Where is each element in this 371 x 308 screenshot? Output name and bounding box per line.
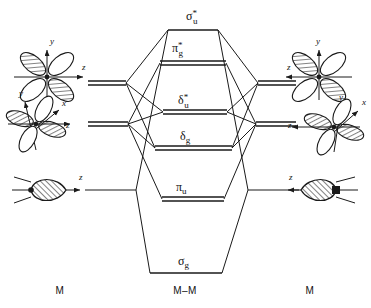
correlation-line <box>126 30 168 83</box>
axis-label-z: z <box>78 172 83 182</box>
correlation-line <box>224 124 256 199</box>
nucleus-dot <box>28 187 34 193</box>
column-label-left-fragment: M <box>56 285 65 296</box>
correlation-line <box>232 124 256 148</box>
correlation-line <box>128 124 155 148</box>
back-lobes <box>12 177 31 203</box>
axis-label-y: y <box>315 36 320 46</box>
column-label-right-fragment: M <box>306 285 315 296</box>
fragment-level-right-d-upper <box>258 81 296 85</box>
sigma-lobe <box>31 180 66 201</box>
correlation-line <box>222 190 248 273</box>
axis-label-z: z <box>286 62 291 72</box>
mo-level-pi-g-star <box>160 61 226 65</box>
mo-level-delta-u-star <box>163 110 227 114</box>
mo-labels: σ*u π*g δ*u δg πu σg <box>172 8 198 270</box>
correlation-lines <box>126 30 258 273</box>
fragment-level-left-d-upper <box>88 81 126 85</box>
sigma-lobe <box>301 180 336 201</box>
axis-label-z: z <box>287 120 292 130</box>
axis-label-x: x <box>61 98 66 108</box>
axis-label-x: x <box>361 97 366 107</box>
mo-correlation-diagram: y z y x z z <box>0 0 371 308</box>
mo-level-delta-g <box>155 146 232 150</box>
mo-label-pi-u: πu <box>176 180 187 196</box>
correlation-line <box>128 124 162 199</box>
fragment-level-left-d-lower <box>88 122 128 126</box>
orbital-sketch-right-sigma-hybrid: z <box>288 172 358 203</box>
nucleus-dot <box>332 186 340 194</box>
mo-level-pi-u <box>162 197 224 201</box>
axis-label-y: y <box>49 36 54 46</box>
axis-label-y: y <box>338 92 343 102</box>
correlation-line <box>126 83 163 112</box>
correlation-line <box>136 190 150 273</box>
axis-label-z: z <box>65 120 70 130</box>
axis-label-z: z <box>288 172 293 182</box>
mo-label-sigma-g: σg <box>178 254 189 270</box>
column-labels: M M–M M <box>56 285 315 296</box>
fragment-levels <box>85 81 299 190</box>
mo-label-pi-g-star: π*g <box>172 40 184 58</box>
column-label-center-molecule: M–M <box>173 285 197 296</box>
correlation-line <box>218 30 258 83</box>
orbital-sketch-left-sigma-hybrid: z <box>12 172 83 203</box>
molecular-orbital-levels <box>150 30 232 273</box>
correlation-line <box>227 112 256 124</box>
axis-label-z: z <box>81 62 86 72</box>
axis-label-y: y <box>18 88 23 98</box>
mo-label-sigma-u-star: σ*u <box>186 8 198 26</box>
diagram-canvas: y z y x z z <box>0 0 371 308</box>
orbital-sketch-right-four-lobe-d-xyz: y x z <box>287 92 370 161</box>
mo-label-delta-g: δg <box>180 129 191 145</box>
orbital-sketch-left-four-lobe-d: y z <box>14 36 86 106</box>
mo-label-delta-u-star: δ*u <box>178 92 189 110</box>
correlation-line <box>226 63 256 124</box>
